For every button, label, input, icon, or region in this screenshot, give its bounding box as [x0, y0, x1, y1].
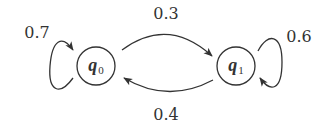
- edge-label-q1-q0: 0.4: [153, 107, 178, 123]
- state-q0-symbol: q: [88, 55, 97, 75]
- state-q1-subscript: 1: [238, 64, 244, 76]
- edge-q0-self-loop: [50, 41, 73, 89]
- edge-q1-self-loop: [258, 39, 282, 88]
- markov-diagram: q0 q1 0.7 0.3 0.4 0.6: [0, 0, 329, 128]
- edge-label-q0-self: 0.7: [24, 25, 49, 41]
- state-q0-subscript: 0: [98, 64, 104, 76]
- edge-q1-q0: [124, 78, 213, 92]
- edge-label-q0-q1: 0.3: [153, 6, 178, 22]
- state-q1-label: q1: [228, 56, 244, 76]
- state-q1-symbol: q: [228, 55, 237, 75]
- edge-q0-q1: [122, 34, 212, 56]
- state-q0-label: q0: [88, 56, 104, 76]
- edge-label-q1-self: 0.6: [286, 29, 311, 45]
